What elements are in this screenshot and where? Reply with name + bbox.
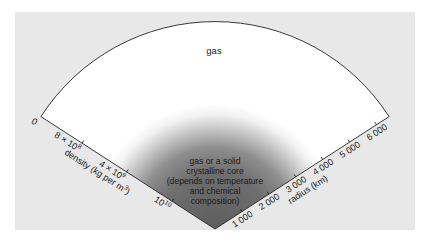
core-label-line: composition) — [191, 196, 240, 206]
stellar-interior-diagram: gas gas or a solid crystalline core (dep… — [0, 0, 423, 242]
outer-region-label: gas — [206, 45, 222, 56]
core-label-line: and chemical — [190, 186, 241, 196]
core-label-line: gas or a solid — [189, 156, 240, 166]
core-label-line: crystalline core — [186, 166, 244, 176]
core-label-line: (depends on temperature — [167, 176, 264, 186]
